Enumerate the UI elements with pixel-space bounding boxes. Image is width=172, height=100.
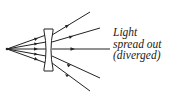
label-line-1: Light [113, 27, 161, 39]
incoming-arrowheads [34, 38, 38, 61]
outgoing-rays [52, 12, 110, 91]
diagram-root: Light spread out (diverged) [0, 0, 172, 100]
light-source-point [6, 48, 9, 51]
outgoing-arrowheads [65, 25, 75, 77]
label-line-3: (diverged) [113, 50, 161, 62]
incoming-rays [7, 35, 46, 63]
concave-lens [44, 29, 53, 71]
diverged-light-label: Light spread out (diverged) [113, 27, 161, 62]
